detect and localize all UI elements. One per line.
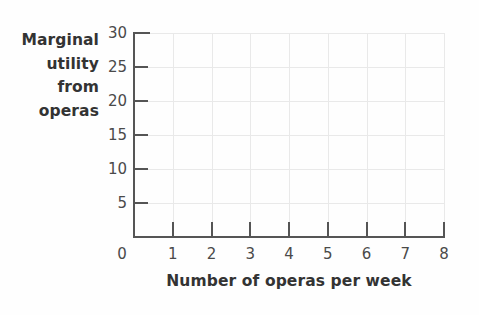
y-tick-label: 30 bbox=[99, 26, 127, 41]
x-tick-label: 6 bbox=[355, 247, 379, 262]
gridline-horizontal bbox=[134, 67, 444, 68]
y-tick-mark bbox=[134, 32, 148, 34]
gridline-horizontal bbox=[134, 135, 444, 136]
y-axis-title-line-2: utility bbox=[0, 53, 99, 77]
x-tick-label: 0 bbox=[110, 247, 134, 262]
x-tick-mark bbox=[366, 222, 368, 237]
x-tick-mark bbox=[249, 222, 251, 237]
y-tick-label: 15 bbox=[99, 128, 127, 143]
y-axis-title-line-3: from bbox=[0, 76, 99, 100]
x-tick-label: 3 bbox=[238, 247, 262, 262]
x-tick-mark bbox=[443, 222, 445, 237]
x-axis-title: Number of operas per week bbox=[134, 272, 444, 290]
y-axis-title-line-4: operas bbox=[0, 100, 99, 124]
x-tick-mark bbox=[327, 222, 329, 237]
x-tick-mark bbox=[211, 222, 213, 237]
y-tick-label: 10 bbox=[99, 162, 127, 177]
gridline-horizontal bbox=[134, 169, 444, 170]
y-tick-label: 5 bbox=[99, 196, 127, 211]
plot-area bbox=[134, 33, 444, 237]
y-tick-mark bbox=[134, 134, 148, 136]
gridline-horizontal bbox=[134, 203, 444, 204]
x-tick-label: 5 bbox=[316, 247, 340, 262]
x-tick-mark bbox=[288, 222, 290, 237]
y-tick-mark bbox=[134, 202, 148, 204]
y-tick-mark bbox=[134, 100, 148, 102]
x-tick-label: 8 bbox=[432, 247, 456, 262]
y-axis-title: Marginal utility from operas bbox=[0, 29, 99, 123]
x-tick-label: 2 bbox=[200, 247, 224, 262]
chart-figure: Marginal utility from operas 51015202530… bbox=[0, 0, 479, 315]
y-axis-title-line-1: Marginal bbox=[0, 29, 99, 53]
x-tick-mark bbox=[404, 222, 406, 237]
gridline-vertical bbox=[444, 33, 445, 237]
x-tick-label: 4 bbox=[277, 247, 301, 262]
x-tick-mark bbox=[172, 222, 174, 237]
x-tick-label: 1 bbox=[161, 247, 185, 262]
y-tick-mark bbox=[134, 66, 148, 68]
y-tick-mark bbox=[134, 168, 148, 170]
gridline-horizontal bbox=[134, 101, 444, 102]
y-tick-label: 25 bbox=[99, 60, 127, 75]
gridline-horizontal bbox=[134, 33, 444, 34]
x-tick-label: 7 bbox=[393, 247, 417, 262]
y-tick-label: 20 bbox=[99, 94, 127, 109]
